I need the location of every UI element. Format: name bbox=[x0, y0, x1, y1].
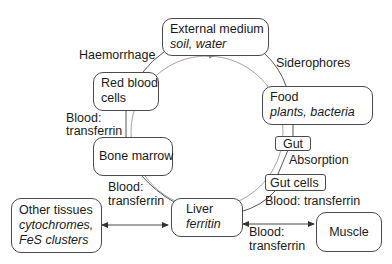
node-title: Food bbox=[270, 90, 365, 105]
edge-label-rbc-bone-2: transferrin bbox=[66, 124, 122, 139]
node-title: Liver bbox=[186, 202, 235, 217]
edge-label-siderophores: Siderophores bbox=[276, 56, 350, 71]
node-subtitle: soil, water bbox=[170, 37, 261, 52]
node-title: Gut bbox=[283, 137, 303, 151]
node-title: Gut cells bbox=[270, 176, 319, 190]
node-subtitle-line2: FeS clusters bbox=[19, 233, 94, 248]
node-subtitle-line1: cytochromes, bbox=[19, 218, 94, 233]
node-title: External medium bbox=[170, 22, 261, 37]
node-gut-cells: Gut cells bbox=[265, 174, 326, 191]
node-title-line2: cells bbox=[101, 91, 151, 106]
node-gut: Gut bbox=[275, 136, 311, 151]
edge-label-gutcells-liver: Blood: transferrin bbox=[265, 194, 360, 209]
node-external-medium: External medium soil, water bbox=[162, 18, 269, 56]
edge-label-haemorrhage: Haemorrhage bbox=[79, 48, 155, 63]
node-title: Muscle bbox=[329, 225, 369, 239]
node-liver: Liver ferritin bbox=[171, 198, 243, 237]
node-bone-marrow: Bone marrow bbox=[93, 137, 173, 176]
node-other-tissues: Other tissues cytochromes, FeS clusters bbox=[11, 198, 102, 253]
node-title-line1: Red blood bbox=[101, 76, 151, 91]
node-title: Bone marrow bbox=[99, 149, 173, 163]
node-subtitle: ferritin bbox=[186, 217, 235, 232]
edge-label-bone-liver-1: Blood: bbox=[108, 180, 143, 195]
node-muscle: Muscle bbox=[316, 212, 382, 252]
node-subtitle: plants, bacteria bbox=[270, 105, 365, 120]
edge-label-absorption: Absorption bbox=[289, 153, 349, 168]
edge-label-liver-muscle-2: transferrin bbox=[249, 239, 305, 254]
node-food: Food plants, bacteria bbox=[262, 86, 373, 125]
edge-label-bone-liver-2: transferrin bbox=[108, 194, 164, 209]
edge-label-liver-muscle-1: Blood: bbox=[249, 225, 284, 240]
node-red-blood-cells: Red blood cells bbox=[93, 72, 159, 111]
node-title: Other tissues bbox=[19, 203, 94, 218]
